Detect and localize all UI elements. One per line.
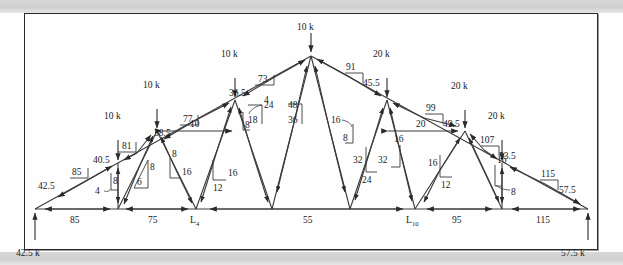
web-label-36: 36 [288, 115, 298, 125]
top-chord-force-73: 73 [258, 74, 268, 84]
web-label-8-a: 8 [113, 176, 118, 186]
load-label-5: 20 k [373, 49, 390, 59]
web-label-32-b: 32 [378, 155, 388, 165]
bottom-chord-force-115: 115 [536, 215, 550, 225]
web-label-8-c: 8 [172, 149, 177, 159]
web-label-16-f: 16 [497, 155, 507, 165]
top-chord-force-85: 85 [72, 167, 82, 177]
bottom-chord-force-95: 95 [452, 215, 462, 225]
truss-diagram-svg: 10 k 10 k 10 k 10 k 20 k 20 k 20 k 42.5 … [0, 0, 623, 265]
web-label-12-a: 12 [213, 183, 223, 193]
top-chord-force-81: 81 [122, 141, 132, 151]
web-label-16-d: 16 [394, 134, 404, 144]
load-label-2: 10 k [143, 80, 160, 90]
figure-page: 10 k 10 k 10 k 10 k 20 k 20 k 20 k 42.5 … [0, 0, 623, 265]
load-label-3: 10 k [221, 49, 238, 59]
web-label-8-f: 8 [511, 187, 516, 197]
bottom-chord-force-85: 85 [70, 215, 80, 225]
slope-triangle-5 [345, 73, 363, 83]
web-label-4-a: 4 [95, 186, 100, 196]
web-label-48: 48 [288, 100, 298, 110]
slope-run-49-5: 49.5 [443, 119, 460, 129]
slope-run-57-5: 57.5 [559, 185, 576, 195]
slope-run-36-5: 36.5 [229, 88, 246, 98]
web-label-8-e: 8 [343, 133, 348, 143]
load-label-apex: 10 k [297, 22, 314, 32]
web-label-18: 18 [248, 115, 258, 125]
slope-triangle-8 [540, 180, 558, 190]
load-label-6: 20 k [451, 81, 468, 91]
reaction-label-right: 57.5 k [561, 248, 585, 258]
top-chord-force-107: 107 [480, 135, 495, 145]
node-label-L4: L 4 [190, 215, 200, 227]
web-triangle-32-16 [391, 145, 400, 167]
web-label-24-b: 24 [362, 175, 372, 185]
web-label-16-c: 16 [331, 115, 341, 125]
top-chord-force-91: 91 [346, 62, 356, 72]
web-label-8-b: 8 [150, 162, 155, 172]
node-label-L10: L 10 [406, 215, 419, 227]
slope-run-42-5: 42.5 [38, 181, 55, 191]
web-force-20: 20 [416, 119, 426, 129]
slope-run-45-5: 45.5 [363, 78, 380, 88]
web-label-16-a: 16 [182, 167, 192, 177]
web-label-16-e: 16 [428, 158, 438, 168]
node-label-L4-sub: 4 [196, 220, 200, 227]
top-chord-force-115: 115 [541, 169, 555, 179]
web-label-6: 6 [137, 177, 142, 187]
top-chord-force-99: 99 [426, 103, 436, 113]
node-label-L10-sub: 10 [412, 220, 419, 227]
load-label-7: 20 k [488, 111, 505, 121]
web-label-16-b: 16 [228, 168, 238, 178]
slope-run-38-5: 38.5 [154, 128, 171, 138]
web-triangle-16-12 [213, 160, 226, 180]
web-force-10: 10 [190, 119, 200, 129]
reaction-label-left: 42.5 k [16, 248, 40, 258]
web-triangle-16-12 [440, 155, 452, 177]
bottom-chord-force-75: 75 [148, 215, 158, 225]
slope-run-40-5: 40.5 [93, 155, 110, 165]
web-label-32-a: 32 [353, 155, 363, 165]
web-label-24-a: 24 [264, 100, 274, 110]
load-label-1: 10 k [104, 111, 121, 121]
web-label-12-b: 12 [441, 180, 451, 190]
bottom-chord-force-55: 55 [303, 215, 313, 225]
